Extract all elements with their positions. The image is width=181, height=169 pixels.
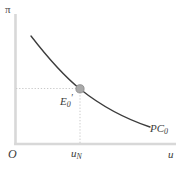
- natural-rate-tick-label: uN: [71, 148, 82, 161]
- phillips-curve-path: [31, 36, 150, 127]
- phillips-curve-figure: π O u uN E0′ PC0: [0, 0, 181, 169]
- x-axis-label: u: [168, 149, 174, 160]
- origin-label: O: [8, 148, 17, 160]
- curve-label: PC0: [150, 123, 168, 136]
- equilibrium-point-marker: [76, 85, 84, 93]
- y-axis-label: π: [5, 4, 11, 15]
- curve-subscript: 0: [164, 127, 168, 136]
- natural-rate-subscript: N: [77, 152, 82, 161]
- equilibrium-prime: ′: [71, 93, 73, 103]
- equilibrium-symbol: E: [60, 95, 67, 107]
- equilibrium-label: E0′: [60, 94, 73, 109]
- chart-canvas: [0, 0, 181, 169]
- curve-symbol: PC: [150, 122, 164, 134]
